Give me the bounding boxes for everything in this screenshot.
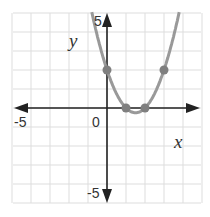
- y-axis-down-arrow-icon: [102, 189, 112, 203]
- data-point: [160, 66, 169, 75]
- tick-label-y-max: 5: [94, 13, 102, 29]
- x-axis-right-arrow-icon: [186, 103, 200, 113]
- graph: -5 0 5 -5 y x: [0, 0, 210, 217]
- tick-label-y-min: -5: [87, 185, 100, 201]
- tick-label-origin: 0: [92, 114, 100, 130]
- y-axis-up-arrow-icon: [102, 13, 112, 27]
- data-point: [103, 66, 112, 75]
- data-point: [122, 104, 131, 113]
- y-axis-label: y: [67, 30, 78, 51]
- data-point: [141, 104, 150, 113]
- x-axis-left-arrow-icon: [14, 103, 28, 113]
- tick-label-x-min: -5: [14, 114, 27, 130]
- x-axis-label: x: [173, 131, 183, 152]
- parabola-curve: [92, 12, 179, 113]
